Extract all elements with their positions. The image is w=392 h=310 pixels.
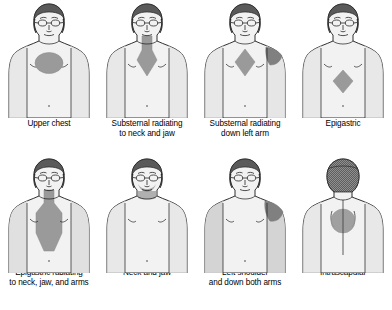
panel-substernal-neck-jaw: Substernal radiating to neck and jaw: [98, 0, 196, 155]
figure-anterior-substernal-left-arm: [196, 0, 294, 118]
caption-line-2: and down both arms: [196, 278, 294, 288]
figure-anterior-left-shoulder: [196, 155, 294, 267]
caption-line-1: Upper chest: [27, 119, 70, 128]
caption-substernal-left-arm: Substernal radiating down left arm: [196, 118, 294, 138]
panel-epigastric: Epigastric: [294, 0, 392, 155]
caption-line-1: Epigastric: [326, 119, 361, 128]
caption-line-1: Substernal radiating: [112, 119, 183, 128]
caption-line-2: down left arm: [196, 129, 294, 139]
caption-upper-chest: Upper chest: [0, 118, 98, 129]
panel-upper-chest: Upper chest: [0, 0, 98, 155]
panel-neck-and-jaw: Neck and jaw: [98, 155, 196, 310]
caption-line-2: to neck, jaw, and arms: [0, 278, 98, 288]
pain-region-upper-chest: [35, 53, 63, 74]
hair-back-of-head: [327, 159, 359, 192]
figure-anterior-substernal-neck-jaw: [98, 0, 196, 118]
caption-line-2: to neck and jaw: [98, 129, 196, 139]
caption-line-1: Substernal radiating: [210, 119, 281, 128]
figure-anterior-neck-and-jaw: [98, 155, 196, 267]
panel-substernal-left-arm: Substernal radiating down left arm: [196, 0, 294, 155]
chest-pain-figure-grid: Upper chest: [0, 0, 392, 310]
caption-substernal-neck-jaw: Substernal radiating to neck and jaw: [98, 118, 196, 138]
figure-anterior-epigastric: [294, 0, 392, 118]
figure-anterior-epigastric-radiating: [0, 155, 98, 267]
panel-epigastric-neck-jaw-arms: Epigastric radiating to neck, jaw, and a…: [0, 155, 98, 310]
panel-intrascapular: Intrascapular: [294, 155, 392, 310]
panel-left-shoulder-both-arms: Left shoulder and down both arms: [196, 155, 294, 310]
figure-anterior-upper-chest: [0, 0, 98, 118]
caption-epigastric: Epigastric: [294, 118, 392, 129]
figure-posterior-intrascapular: [294, 155, 392, 267]
